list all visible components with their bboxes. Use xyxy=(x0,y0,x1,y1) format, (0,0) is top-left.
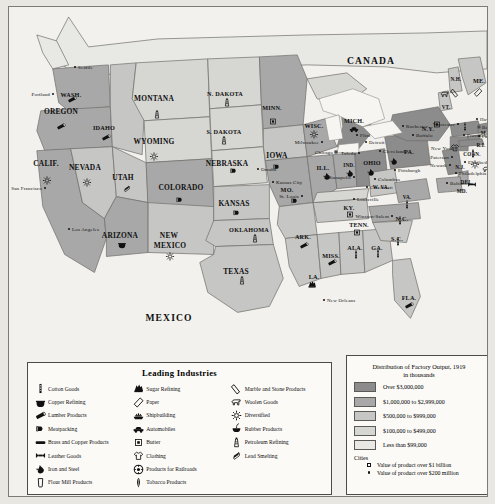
city-dot-marker xyxy=(353,198,355,200)
industry-legend-label: Iron and Steel xyxy=(48,466,79,472)
city-dot-marker xyxy=(356,134,358,136)
output-range-swatch xyxy=(354,382,376,392)
output-range-rows: Over $3,000,000$1,000,000 to $2,999,000$… xyxy=(347,380,488,453)
city-dot-marker xyxy=(323,299,325,301)
industry-legend-label: Diversified xyxy=(245,412,270,418)
leadsmelt-icon xyxy=(229,449,245,462)
city-dot-marker xyxy=(321,141,323,143)
output-legend-title: Distribution of Factory Output, 1919 in … xyxy=(353,363,485,379)
industry-legend-label: Clothing xyxy=(146,453,166,459)
city-key-label: Value of product over $1 billion xyxy=(377,462,451,468)
clothing-icon xyxy=(130,449,146,462)
output-range-label: $100,000 to $499,000 xyxy=(383,428,436,434)
industry-legend-column: Marble and Stone ProductsWoolen GoodsDiv… xyxy=(229,382,327,489)
industry-legend-row: Butter xyxy=(130,436,228,449)
cotton-icon xyxy=(32,382,48,395)
industry-legend-label: Butter xyxy=(146,439,160,445)
output-range-swatch xyxy=(354,440,376,450)
output-range-swatch xyxy=(354,397,376,407)
output-range-label: $1,000,000 to $2,999,000 xyxy=(383,399,445,405)
lumber-icon xyxy=(32,409,48,422)
industry-legend-label: Flour Mill Products xyxy=(48,479,92,485)
industry-legend-row: Iron and Steel xyxy=(32,462,130,475)
industry-legend-row: Leather Goods xyxy=(32,449,130,462)
city-dot-marker xyxy=(272,181,274,183)
city-dot-marker xyxy=(464,161,466,163)
industry-legend-row: Copper Refining xyxy=(32,395,130,408)
city-dot-marker xyxy=(301,195,303,197)
sugar-icon xyxy=(130,382,146,395)
industry-legend-label: Marble and Stone Products xyxy=(245,386,306,392)
industry-legend-label: Lumber Products xyxy=(48,412,87,418)
city-dot-marker xyxy=(44,187,46,189)
city-dot-marker xyxy=(455,172,457,174)
paper-icon xyxy=(130,396,146,409)
shipbuilding-icon xyxy=(130,409,146,422)
flour-icon xyxy=(32,476,48,489)
output-range-swatch xyxy=(354,411,376,421)
output-range-swatch xyxy=(354,426,376,436)
marble-icon xyxy=(229,382,245,395)
city-dot-marker xyxy=(74,66,76,68)
industry-legend-row: Lumber Products xyxy=(32,409,130,422)
meatpack-icon xyxy=(32,422,48,435)
industry-legend-label: Sugar Refining xyxy=(146,386,180,392)
leather-icon xyxy=(32,449,48,462)
industry-legend-label: Meatpacking xyxy=(48,426,77,432)
industry-legend-row: Cotton Goods xyxy=(32,382,130,395)
city-dot-marker xyxy=(476,118,478,120)
industry-legend-label: Woolen Goods xyxy=(245,399,278,405)
railroad-icon xyxy=(130,463,146,476)
industry-legend-row: Marble and Stone Products xyxy=(229,382,327,395)
industry-legend-label: Rubber Products xyxy=(245,426,282,432)
city-dot-marker xyxy=(449,164,451,166)
city-square-key-icon xyxy=(361,463,377,466)
industry-legend-row: Brass and Copper Products xyxy=(32,436,130,449)
factory-output-legend: Distribution of Factory Output, 1919 in … xyxy=(346,355,488,495)
automobile-icon xyxy=(130,422,146,435)
industry-legend-label: Shipbuilding xyxy=(146,412,175,418)
industry-legend-label: Brass and Copper Products xyxy=(48,439,109,445)
output-legend-title-line1: Distribution of Factory Output, 1919 xyxy=(353,363,485,371)
ironsteel-icon xyxy=(32,463,48,476)
industry-legend-label: Tobacco Products xyxy=(146,479,186,485)
city-dot-marker xyxy=(463,134,465,136)
industry-legend-row: Petroleum Refining xyxy=(229,436,327,449)
industry-legend-label: Lead Smelting xyxy=(245,453,278,459)
output-range-row: Less than $99,000 xyxy=(354,438,488,453)
industry-legend-label: Copper Refining xyxy=(48,399,85,405)
diversified-icon xyxy=(229,409,245,422)
tobacco-icon xyxy=(130,476,146,489)
map-frame: .st{stroke:#6f6d69;stroke-width:.7;} .g1… xyxy=(8,6,488,497)
industry-legend-row: Clothing xyxy=(130,449,228,462)
output-range-label: $500,000 to $999,000 xyxy=(383,413,436,419)
industry-legend-label: Paper xyxy=(146,399,159,405)
city-square-marker xyxy=(478,126,481,129)
map-page: .st{stroke:#6f6d69;stroke-width:.7;} .g1… xyxy=(0,0,495,504)
city-dot-marker xyxy=(451,156,453,158)
output-range-row: $100,000 to $499,000 xyxy=(354,424,488,439)
output-range-label: Over $3,000,000 xyxy=(383,384,424,390)
butter-icon xyxy=(130,436,146,449)
output-legend-title-line2: in thousands xyxy=(353,371,485,379)
output-range-row: Over $3,000,000 xyxy=(354,380,488,395)
industry-legend-row: Products for Railroads xyxy=(130,462,228,475)
city-square-marker xyxy=(455,147,458,150)
industry-legend-label: Automobiles xyxy=(146,426,175,432)
output-range-label: Less than $99,000 xyxy=(383,442,427,448)
industry-legend-label: Products for Railroads xyxy=(146,466,196,472)
industry-legend-columns: Cotton GoodsCopper RefiningLumber Produc… xyxy=(28,382,331,489)
industry-legend-label: Cotton Goods xyxy=(48,386,79,392)
industry-legend-label: Petroleum Refining xyxy=(245,439,289,445)
industry-legend-label: Leather Goods xyxy=(48,453,81,459)
city-dot-key-icon xyxy=(361,471,377,474)
city-dot-marker xyxy=(353,176,355,178)
industry-legend-row: Sugar Refining xyxy=(130,382,228,395)
cities-heading: Cities xyxy=(354,455,488,461)
industry-legend-row: Automobiles xyxy=(130,422,228,435)
industry-legend-column: Sugar RefiningPaperShipbuildingAutomobil… xyxy=(130,382,228,489)
industry-legend-row: Tobacco Products xyxy=(130,476,228,489)
city-dot-marker xyxy=(412,134,414,136)
city-dot-marker xyxy=(374,178,376,180)
city-dot-marker xyxy=(52,93,54,95)
